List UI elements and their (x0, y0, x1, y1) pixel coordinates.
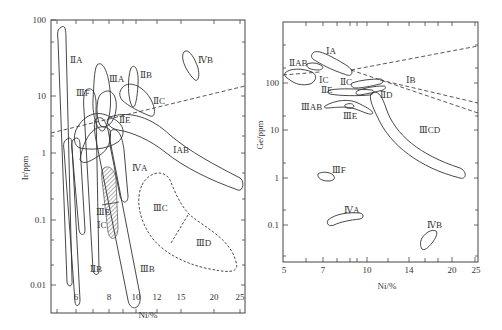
field-IIC (120, 84, 155, 116)
right-xtick-10: 10 (363, 265, 373, 275)
label-IIIA: ⅢA (109, 74, 125, 84)
label-IIID: ⅢD (196, 238, 212, 248)
figure: 100 10 1 0.1 0.01 6 8 10 12 15 20 25 Ni/… (0, 0, 502, 330)
label-IVB: ⅣB (427, 220, 442, 230)
field-IIIF-upper (97, 91, 116, 127)
label-IVA: ⅣA (132, 163, 148, 173)
right-ytick-0.1: 0.1 (268, 220, 279, 230)
right-chart: 100 10 1 0.1 5 7 10 14 20 25 Ni/% Ge/ppm (255, 22, 481, 291)
label-IC: ⅠC (319, 75, 329, 85)
right-ytick-100: 100 (266, 78, 280, 88)
right-xtick-14: 14 (405, 265, 415, 275)
field-IVB (183, 51, 199, 80)
right-upper-dashed-line (351, 46, 478, 70)
label-IIIAB: ⅢAB (301, 102, 322, 112)
label-IIB-upper: ⅡB (140, 70, 152, 80)
label-IIICD: ⅢCD (419, 125, 441, 135)
field-IIE-inner (80, 127, 111, 163)
left-ytick-0.01: 0.01 (30, 280, 46, 290)
label-IIE: ⅡE (321, 85, 333, 95)
label-IIB-lower: ⅡB (90, 264, 102, 274)
right-y-axis-title: Ge/ppm (255, 121, 265, 150)
right-y-ticks (283, 45, 478, 256)
label-IVB: ⅣB (198, 55, 213, 65)
left-ytick-0.1: 0.1 (35, 215, 46, 225)
label-IIC: ⅡC (340, 77, 352, 87)
label-IIIF: ⅢF (76, 88, 90, 98)
left-ytick-1: 1 (42, 148, 47, 158)
label-IIA: ⅡA (70, 55, 83, 65)
label-IIIB: ⅢB (140, 264, 155, 274)
left-top-ticks (57, 20, 240, 24)
field-IIICD (370, 92, 465, 178)
label-IC: ⅠC (97, 220, 107, 230)
left-ytick-10: 10 (37, 91, 47, 101)
field-IIE (74, 114, 123, 150)
label-IID: ⅡD (380, 90, 393, 100)
field-IC (72, 138, 85, 235)
label-IIE: ⅡE (119, 115, 131, 125)
field-IIIF (84, 89, 99, 275)
right-ytick-1: 1 (275, 173, 280, 183)
left-xtick-20: 20 (210, 292, 220, 302)
left-chart: 100 10 1 0.1 0.01 6 8 10 12 15 20 25 Ni/… (20, 15, 245, 320)
label-IIIC: ⅢC (153, 203, 168, 213)
label-IAB: ⅠAB (173, 145, 189, 155)
label-IVA: ⅣA (344, 205, 360, 215)
right-x-axis-title: Ni/% (378, 281, 398, 291)
left-xtick-8: 8 (107, 292, 112, 302)
field-IC (285, 69, 316, 85)
left-xtick-25: 25 (236, 292, 246, 302)
right-middle-dashed-line (380, 80, 478, 103)
label-IIIE: ⅢE (96, 207, 111, 217)
label-IIAB: ⅡAB (289, 58, 308, 68)
right-ytick-10: 10 (270, 125, 280, 135)
label-IB: ⅠB (406, 75, 416, 85)
IIIC-IIID-divider (171, 215, 188, 243)
right-xtick-5: 5 (282, 265, 287, 275)
field-IIE (328, 89, 374, 96)
field-IIC (351, 79, 383, 88)
right-xtick-25: 25 (472, 265, 482, 275)
field-IIIC-IIID (139, 173, 237, 271)
left-xtick-15: 15 (177, 292, 187, 302)
left-xtick-12: 12 (153, 292, 162, 302)
right-xtick-20: 20 (448, 265, 458, 275)
field-IIB-upper (128, 66, 138, 106)
left-ytick-100: 100 (33, 15, 47, 25)
left-y-axis-title: Ir/ppm (20, 156, 30, 181)
label-IA: ⅠA (326, 46, 337, 56)
label-IIC: ⅡC (153, 96, 165, 106)
label-IIIF: ⅢF (332, 165, 346, 175)
right-xtick-7: 7 (321, 265, 326, 275)
left-x-axis-title: Ni/% (139, 310, 159, 320)
label-IIIE: ⅢE (343, 111, 358, 121)
field-IVB (421, 230, 437, 249)
